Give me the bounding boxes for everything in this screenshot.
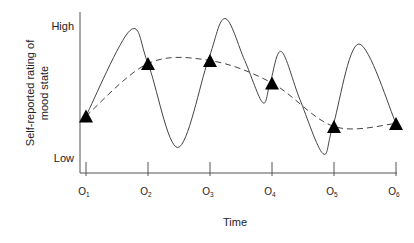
series-actual-mood-line xyxy=(86,19,396,155)
y-axis-title-line-1: Self-reported rating of xyxy=(24,39,36,146)
x-tick-label-1: O1 xyxy=(78,186,90,198)
mood-chart: Self-reported rating of mood state High … xyxy=(0,0,414,243)
y-tick-label-high: High xyxy=(51,20,74,32)
x-tick-label-5: O5 xyxy=(326,186,338,198)
observation-marker-2 xyxy=(141,57,155,70)
observation-marker-4 xyxy=(265,77,279,90)
x-tick-label-3: O3 xyxy=(202,186,214,198)
y-axis-title-line-2: mood state xyxy=(38,66,50,120)
series-trend-dashed-line xyxy=(86,57,396,129)
x-axis-title: Time xyxy=(223,216,247,228)
y-axis-title: Self-reported rating of mood state xyxy=(24,39,50,146)
observation-marker-1 xyxy=(79,110,93,123)
observation-marker-6 xyxy=(389,117,403,130)
x-tick-label-2: O2 xyxy=(140,186,152,198)
x-tick-label-6: O6 xyxy=(388,186,400,198)
x-tick-label-4: O4 xyxy=(264,186,276,198)
observation-marker-3 xyxy=(203,54,217,67)
y-tick-label-low: Low xyxy=(54,152,74,164)
observation-marker-5 xyxy=(327,120,341,133)
